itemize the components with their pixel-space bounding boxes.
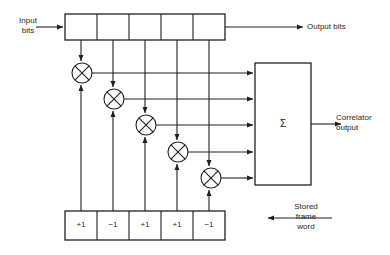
multiplier-5 <box>201 168 221 188</box>
output-bits-label: Output bits <box>307 22 385 32</box>
input-shift-register-outline <box>65 14 225 40</box>
correlator-diagram: Input bits Output bits Σ Correlator outp… <box>0 0 390 255</box>
correlator-output-label: Correlator output <box>336 113 390 133</box>
multiplier-2 <box>104 89 124 109</box>
summation-symbol: Σ <box>255 118 311 129</box>
multiplier-4 <box>168 142 188 162</box>
stored-word-cell-3: +1 <box>129 220 161 230</box>
stored-word-cell-2: −1 <box>97 220 129 230</box>
stored-word-cell-1: +1 <box>65 220 97 230</box>
multiplier-1 <box>72 63 92 83</box>
stored-word-cell-4: +1 <box>161 220 193 230</box>
input-bits-label: Input bits <box>8 16 48 36</box>
stored-word-cell-5: −1 <box>193 220 225 230</box>
stored-frame-word-label: Stored frame word <box>278 202 334 232</box>
multiplier-3 <box>136 115 156 135</box>
